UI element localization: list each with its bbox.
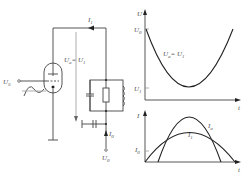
x-axis-label: t — [238, 166, 241, 174]
supply-current-arrow-icon — [104, 130, 108, 136]
current-label: I1 — [87, 16, 93, 25]
voltage-arrow-icon — [74, 116, 78, 122]
y-axis-label: U — [137, 10, 143, 18]
supply-voltage-label: U0 — [102, 154, 110, 163]
voltage-graph: U t U0 U1 Ua= U1 — [134, 9, 241, 112]
tick-upper-label: U0 — [134, 26, 142, 35]
current-graph: I t I0 Ia I1 — [134, 110, 241, 174]
y-axis-label: I — [136, 112, 140, 120]
supply-current-label: I0 — [108, 130, 114, 139]
curve-ia-label: Ia — [207, 122, 213, 131]
y-axis-arrow-icon — [143, 110, 147, 116]
input-terminal-icon — [18, 80, 21, 83]
input-voltage-label: US — [3, 78, 11, 87]
tick-lower-label: U1 — [134, 85, 142, 94]
current-arrow-icon — [88, 26, 94, 31]
voltage-eq-label: Ua= U1 — [64, 56, 86, 65]
x-axis-arrow-icon — [235, 98, 241, 102]
x-axis-arrow-icon — [235, 160, 241, 164]
x-axis-label: t — [238, 104, 241, 112]
bypass-capacitor-icon — [82, 120, 107, 128]
schematic: I1 Ua= U1 US — [3, 16, 124, 163]
supply-terminal-icon — [105, 149, 108, 152]
y-axis-arrow-icon — [143, 9, 147, 15]
tank-circuit — [86, 80, 124, 111]
voltage-curve — [146, 29, 233, 87]
curve-label: Ua= U1 — [163, 50, 185, 59]
resistor-icon — [103, 88, 109, 102]
tank-frame — [90, 80, 123, 111]
anode-wire — [53, 28, 106, 80]
tick-label: I0 — [134, 146, 140, 155]
